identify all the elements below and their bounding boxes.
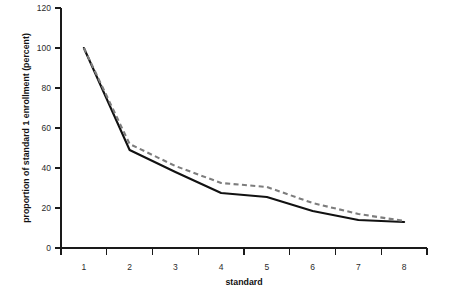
y-tick-label: 60	[42, 123, 52, 133]
x-tick-label: 1	[82, 262, 87, 272]
x-tick-label: 6	[310, 262, 315, 272]
x-tick-label: 3	[173, 262, 178, 272]
y-tick-label: 40	[42, 163, 52, 173]
y-tick-label: 0	[46, 243, 51, 253]
x-tick-label: 4	[219, 262, 224, 272]
x-tick-label: 2	[127, 262, 132, 272]
y-tick-label-group: 020406080100120	[37, 3, 51, 253]
x-axis-title: standard	[225, 277, 262, 287]
x-tick-label: 8	[402, 262, 407, 272]
y-tick-label: 100	[37, 43, 51, 53]
x-tick-label-group: 12345678	[82, 262, 407, 272]
y-tick-label: 80	[42, 83, 52, 93]
y-axis: 020406080100120	[37, 3, 61, 253]
y-tick-group	[55, 8, 61, 248]
y-tick-label: 120	[37, 3, 51, 13]
x-tick-label: 7	[356, 262, 361, 272]
series-group	[84, 48, 404, 222]
x-axis: 12345678	[61, 248, 427, 272]
x-tick-group	[61, 248, 427, 255]
series-line-solid	[84, 48, 404, 222]
line-chart: 020406080100120 12345678 standard propor…	[0, 0, 450, 295]
chart-container: 020406080100120 12345678 standard propor…	[0, 0, 450, 295]
y-axis-title: proportion of standard 1 enrollment (per…	[21, 33, 31, 223]
x-tick-label: 5	[265, 262, 270, 272]
y-tick-label: 20	[42, 203, 52, 213]
